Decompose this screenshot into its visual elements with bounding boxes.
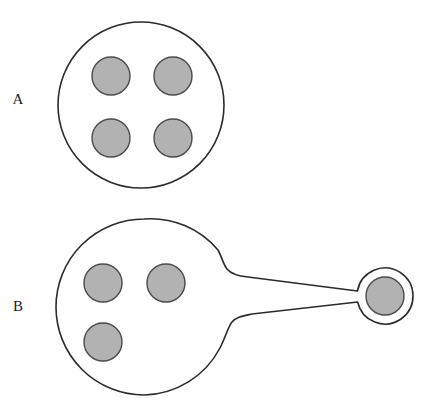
panel-b-granule-upper-right [147, 264, 185, 302]
panel-b: B [13, 219, 413, 395]
panel-a-granule-top-right [154, 57, 192, 95]
panel-a-granule-bottom-right [154, 119, 192, 157]
panel-a-label: A [13, 91, 24, 107]
panel-a: A [13, 22, 224, 188]
panel-b-label: B [13, 298, 23, 314]
panel-b-bud-granule [366, 277, 404, 315]
panel-a-granule-bottom-left [92, 119, 130, 157]
panel-b-granule-lower-left [84, 323, 122, 361]
cell-budding-diagram: A B [0, 0, 428, 413]
panel-a-mother-cell [58, 22, 224, 188]
panel-b-granule-upper-left [84, 264, 122, 302]
panel-b-cell-with-bud-outline [56, 219, 413, 395]
figure-root: A B [0, 0, 428, 413]
panel-a-granule-top-left [92, 57, 130, 95]
